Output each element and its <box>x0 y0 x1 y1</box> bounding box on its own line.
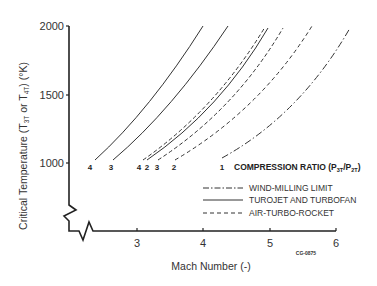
curve-label-atr-4: 4 <box>137 163 142 172</box>
y-tick-1500: 1500 <box>40 89 64 101</box>
curve-turbojet-cr3 <box>113 26 228 160</box>
y-axis-title: Critical Temperature (T3T or T4T) (°K) <box>17 62 30 230</box>
y-tick-1000: 1000 <box>40 157 64 169</box>
legend-title: COMPRESSION RATIO (P3T/P2T) <box>234 162 361 173</box>
x-tick-6: 6 <box>333 237 339 249</box>
curve-label-windmill-1: 1 <box>220 163 225 172</box>
chart-canvas: 2000 1500 1000 3 4 5 6 Mach Number (-) C… <box>0 0 377 286</box>
figure-code: CG-0875 <box>296 250 317 256</box>
curve-atr-cr2 <box>175 26 312 160</box>
curve-label-atr-3: 3 <box>155 163 160 172</box>
curve-label-turbojet-4: 4 <box>88 163 93 172</box>
x-axis-title: Mach Number (-) <box>171 260 250 272</box>
curve-atr-cr4 <box>143 27 265 160</box>
curve-windmilling-cr1 <box>222 28 350 158</box>
x-tick-3: 3 <box>134 237 140 249</box>
x-tick-4: 4 <box>200 237 206 249</box>
curve-label-atr-2: 2 <box>172 163 177 172</box>
legend-label-turbojet: TUROJET AND TURBOFAN <box>249 195 356 205</box>
x-tick-5: 5 <box>267 237 273 249</box>
curve-label-turbojet-2: 2 <box>145 163 150 172</box>
y-tick-2000: 2000 <box>40 20 64 32</box>
curve-labels: 4 3 4 2 3 2 1 <box>88 163 225 172</box>
legend: WIND-MILLING LIMIT TUROJET AND TURBOFAN … <box>203 183 356 218</box>
curve-label-turbojet-3: 3 <box>109 163 114 172</box>
legend-label-atr: AIR-TURBO-ROCKET <box>249 208 334 218</box>
curves <box>95 26 350 160</box>
legend-label-windmilling: WIND-MILLING LIMIT <box>249 183 333 193</box>
